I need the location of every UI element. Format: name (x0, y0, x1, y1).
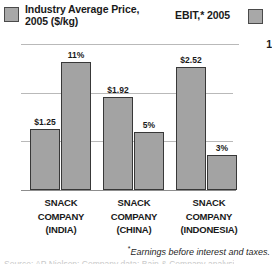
source-line: Source: AP Nielsen; Company data; Bain &… (4, 259, 234, 264)
bar-label-price-china: $1.92 (95, 85, 141, 95)
bar-label-price-indonesia: $2.52 (168, 55, 214, 65)
legend-label-ebit: EBIT,* 2005 (175, 10, 247, 22)
bar-label-ebit-china: 5% (127, 120, 171, 130)
category-label-china: SNACK COMPANY (CHINA) (97, 196, 171, 237)
chart-figure: Industry Average Price, 2005 ($/kg) EBIT… (0, 0, 272, 264)
bar-label-ebit-indonesia: 3% (200, 143, 244, 153)
bar-price-indonesia (176, 67, 206, 190)
ytick-right-125: 12.5% (258, 38, 272, 50)
ytick-right-25: 2.5 (258, 155, 272, 167)
ytick-right-0: 0 (258, 184, 272, 196)
bar-label-ebit-india: 11% (54, 50, 98, 60)
bar-group-indonesia: $2.52 3% (176, 44, 237, 190)
category-china-line2: COMPANY (97, 210, 171, 224)
category-india-line1: SNACK (24, 196, 98, 210)
category-india-line2: COMPANY (24, 210, 98, 224)
category-axis: SNACK COMPANY (INDIA) SNACK COMPANY (CHI… (26, 196, 238, 244)
ytick-right-50: 5.0 (258, 126, 272, 138)
chart-legend: Industry Average Price, 2005 ($/kg) EBIT… (0, 0, 272, 33)
footnote-text: Earnings before interest and taxes. (130, 247, 270, 257)
legend-swatch-icon-price (4, 7, 19, 22)
bar-price-india (30, 129, 60, 190)
ytick-right-75: 7.5 (258, 96, 272, 108)
category-indonesia-line3: (INDONESIA) (168, 223, 250, 237)
bar-ebit-china (134, 132, 164, 190)
category-indonesia-line2: COMPANY (168, 210, 250, 224)
bar-ebit-india (61, 62, 91, 190)
bar-group-india: $1.25 11% (30, 44, 91, 190)
legend-swatch-icon-ebit (248, 9, 263, 24)
category-china-line3: (CHINA) (97, 223, 171, 237)
category-label-india: SNACK COMPANY (INDIA) (24, 196, 98, 237)
bar-group-china: $1.92 5% (103, 44, 164, 190)
plot-area: $3 $2 $1 $0 12.5% 10.0 7.5 5.0 2.5 0 $1.… (26, 44, 228, 190)
bar-ebit-indonesia (207, 155, 237, 190)
axis-baseline (21, 190, 236, 191)
footnote: *Earnings before interest and taxes. (104, 243, 270, 258)
ytick-right-100: 10.0 (258, 67, 272, 79)
category-china-line1: SNACK (97, 196, 171, 210)
category-india-line3: (INDIA) (24, 223, 98, 237)
category-indonesia-line1: SNACK (168, 196, 250, 210)
bar-price-china (103, 97, 133, 190)
legend-label-price: Industry Average Price, 2005 ($/kg) (25, 4, 160, 27)
category-label-indonesia: SNACK COMPANY (INDONESIA) (168, 196, 250, 237)
